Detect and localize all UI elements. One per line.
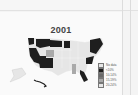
state-northeast <box>90 38 103 54</box>
legend-item: No data <box>98 63 117 67</box>
state-colorado <box>46 50 54 57</box>
legend-item: 15-19% <box>98 78 117 82</box>
legend-label: 20-24% <box>106 84 116 87</box>
legend-item: 10-14% <box>98 73 117 77</box>
state-hawaii <box>34 80 46 87</box>
state-mississippi <box>72 64 76 74</box>
state-northern-plains <box>50 40 62 47</box>
legend-item: 20-24% <box>98 83 117 87</box>
state-washington <box>28 38 34 45</box>
legend-label: <10% <box>106 69 114 72</box>
legend-item: <10% <box>98 68 117 72</box>
state-new-mexico <box>46 58 53 68</box>
us-map <box>0 0 138 95</box>
legend-label: 10-14% <box>106 74 116 77</box>
legend-swatch <box>98 83 104 88</box>
state-alaska <box>10 68 26 82</box>
state-minnesota <box>64 41 70 48</box>
legend-label: No data <box>106 64 117 67</box>
map-legend: No data <10% 10-14% 15-19% 20-24% <box>98 63 117 88</box>
legend-label: 15-19% <box>106 79 116 82</box>
